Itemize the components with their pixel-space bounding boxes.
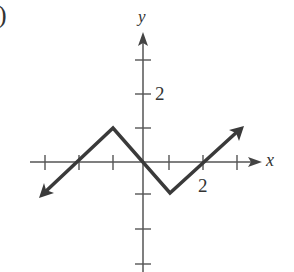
y-tick-label: 2: [155, 83, 165, 105]
y-axis-label: y: [138, 7, 146, 27]
x-tick-label: 2: [198, 175, 208, 197]
graph: [0, 0, 294, 272]
y-axis: [135, 32, 151, 272]
x-axis-label: x: [266, 150, 274, 171]
